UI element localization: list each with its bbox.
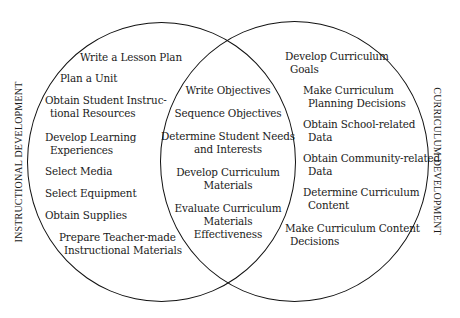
left-item: Obtain Student Instruc- tional Resources (45, 94, 167, 120)
item-text-continued: Instructional Materials (59, 244, 182, 257)
right-item: Develop Curriculum Goals (285, 50, 389, 76)
left-item: Obtain Supplies (45, 209, 127, 222)
item-text: Develop Curriculum (158, 166, 298, 179)
item-text: Develop Learning (45, 131, 136, 143)
left-item: Select Equipment (45, 187, 136, 200)
item-text: Write Objectives (158, 84, 298, 97)
right-item: Determine Curriculum Content (303, 186, 419, 212)
item-text-continued: Data (303, 165, 440, 178)
right-item: Make Curriculum Planning Decisions (303, 84, 406, 110)
item-text-continued: Data (303, 131, 415, 144)
item-text-continued: Experiences (45, 144, 136, 157)
left-item: Select Media (45, 165, 112, 178)
item-text: Write a Lesson Plan (80, 51, 182, 63)
left-item: Plan a Unit (60, 72, 117, 85)
item-text: Obtain Student Instruc- (45, 94, 167, 106)
item-text-continued: and Interests (158, 143, 298, 156)
item-text: Obtain Supplies (45, 209, 127, 221)
intersection-item: Evaluate Curriculum Materials Effectiven… (158, 202, 298, 241)
intersection-item: Develop Curriculum Materials (158, 166, 298, 192)
item-text: Plan a Unit (60, 72, 117, 84)
item-text: Develop Curriculum (285, 50, 389, 62)
item-text-continued: Planning Decisions (303, 97, 406, 110)
item-text: Evaluate Curriculum (158, 202, 298, 215)
right-item: Obtain School-related Data (303, 118, 415, 144)
item-text: Make Curriculum Content (285, 222, 420, 234)
item-text: Determine Student Needs (158, 130, 298, 143)
intersection-item: Sequence Objectives (158, 107, 298, 120)
item-text-continued: Goals (285, 63, 389, 76)
item-text: Determine Curriculum (303, 186, 419, 198)
intersection-item: Determine Student Needs and Interests (158, 130, 298, 156)
item-text: Make Curriculum (303, 84, 394, 96)
item-text-continued: Decisions (285, 235, 420, 248)
set-label-instructional-development: INSTRUCTIONAL DEVELOPMENT (13, 81, 24, 242)
item-text-continued: Content (303, 199, 419, 212)
left-item: Write a Lesson Plan (80, 51, 182, 64)
item-text-continued: Materials (158, 215, 298, 228)
item-text: Obtain School-related (303, 118, 415, 130)
item-text-continued: Materials (158, 179, 298, 192)
item-text: Select Media (45, 165, 112, 177)
intersection-item: Write Objectives (158, 84, 298, 97)
left-item: Develop Learning Experiences (45, 131, 136, 157)
right-item: Make Curriculum Content Decisions (285, 222, 420, 248)
item-text: Select Equipment (45, 187, 136, 199)
item-text: Sequence Objectives (158, 107, 298, 120)
venn-diagram: INSTRUCTIONAL DEVELOPMENT CURRICULUM DEV… (0, 0, 460, 318)
right-item: Obtain Community-related Data (303, 152, 440, 178)
item-text: Obtain Community-related (303, 152, 440, 164)
item-text-continued: Effectiveness (158, 228, 298, 241)
item-text-continued: tional Resources (45, 107, 167, 120)
